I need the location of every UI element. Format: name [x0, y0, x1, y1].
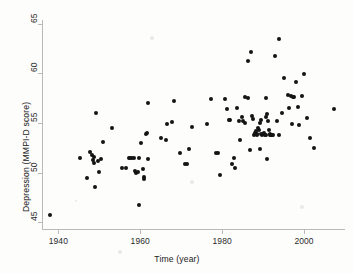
data-point: [85, 176, 89, 180]
data-point: [218, 173, 222, 177]
data-point: [187, 147, 191, 151]
data-point: [136, 170, 140, 174]
data-point: [282, 76, 286, 80]
y-tick: [38, 24, 42, 25]
x-tick: [58, 230, 59, 234]
data-point: [92, 161, 96, 165]
data-point: [237, 119, 241, 123]
data-point: [165, 122, 169, 126]
data-point: [99, 157, 103, 161]
x-axis-line: [42, 229, 345, 230]
scan-speck: [300, 205, 304, 209]
data-point: [137, 203, 141, 207]
data-point: [145, 131, 149, 135]
data-point: [277, 133, 281, 137]
data-point: [294, 80, 298, 84]
scatter-plot-figure: 4550556065 1940196019802000 Depression (…: [0, 0, 354, 274]
data-point: [205, 122, 209, 126]
data-point: [146, 101, 150, 105]
data-point: [297, 123, 301, 127]
scan-speck: [75, 200, 77, 202]
data-point: [241, 119, 245, 123]
data-point: [258, 147, 262, 151]
scan-speck: [190, 180, 194, 184]
data-point: [238, 138, 242, 142]
y-tick: [38, 173, 42, 174]
data-point: [308, 136, 312, 140]
data-point: [287, 106, 291, 110]
x-tick-label: 2000: [284, 236, 324, 246]
data-point: [292, 95, 296, 99]
scan-speck: [118, 250, 122, 254]
data-point: [232, 156, 236, 160]
plot-area: [42, 20, 345, 230]
x-tick-label: 1940: [38, 236, 78, 246]
data-point: [264, 133, 268, 137]
x-axis-title: Time (year): [0, 254, 354, 264]
data-point: [78, 156, 82, 160]
y-tick: [38, 73, 42, 74]
data-point: [290, 122, 294, 126]
data-point: [246, 59, 250, 63]
data-point: [275, 119, 279, 123]
y-axis-title: Depression (MMPI-D score): [21, 102, 31, 212]
data-point: [225, 107, 229, 111]
data-point: [271, 133, 275, 137]
x-tick-label: 1980: [202, 236, 242, 246]
data-point: [178, 151, 182, 155]
data-point: [264, 96, 268, 100]
data-point: [139, 141, 143, 145]
y-tick: [38, 222, 42, 223]
data-point: [280, 111, 284, 115]
data-point: [110, 126, 114, 130]
data-point: [101, 140, 105, 144]
data-point: [164, 138, 168, 142]
data-point: [249, 50, 253, 54]
y-axis-line: [42, 20, 43, 230]
data-point: [124, 166, 128, 170]
data-point: [146, 157, 150, 161]
data-point: [305, 116, 309, 120]
data-point: [159, 136, 163, 140]
data-point: [300, 94, 304, 98]
data-point: [332, 107, 336, 111]
x-tick: [222, 230, 223, 234]
x-tick: [140, 230, 141, 234]
data-point: [265, 157, 269, 161]
data-point: [233, 166, 237, 170]
data-point: [223, 97, 227, 101]
data-point: [93, 185, 97, 189]
data-point: [172, 99, 176, 103]
data-point: [228, 118, 232, 122]
data-point: [251, 117, 255, 121]
scan-speck: [150, 36, 154, 40]
data-point: [216, 151, 220, 155]
data-point: [48, 213, 52, 217]
data-point: [141, 167, 145, 171]
data-point: [266, 119, 270, 123]
data-point: [185, 162, 189, 166]
data-point: [132, 156, 136, 160]
data-point: [97, 170, 101, 174]
data-point: [265, 112, 269, 116]
x-tick: [304, 230, 305, 234]
data-point: [230, 162, 234, 166]
data-point: [302, 72, 306, 76]
data-point: [190, 125, 194, 129]
y-tick: [38, 123, 42, 124]
data-point: [142, 175, 146, 179]
data-point: [277, 37, 281, 41]
scan-speck: [250, 60, 252, 62]
data-point: [94, 111, 98, 115]
data-point: [312, 146, 316, 150]
data-point: [273, 54, 277, 58]
data-point: [259, 118, 263, 122]
data-point: [137, 156, 141, 160]
data-point: [209, 97, 213, 101]
data-point: [248, 148, 252, 152]
data-point: [92, 155, 96, 159]
data-point: [235, 106, 239, 110]
data-point: [296, 105, 300, 109]
data-point: [170, 120, 174, 124]
x-tick-label: 1960: [120, 236, 160, 246]
